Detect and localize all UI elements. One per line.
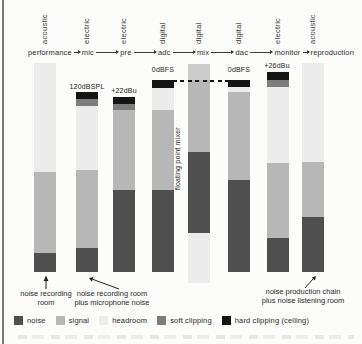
bar-monitor-headroom-segment [267, 87, 289, 163]
bar-performance-signal-segment [34, 172, 56, 253]
bar-adc-headroom-segment [152, 88, 174, 110]
figure-audio-chain-level-diagram: acousticelectricelectricdigitaldigitaldi… [0, 0, 362, 344]
bar-mic-signal-segment [76, 170, 98, 248]
bar-pre-noise-segment [113, 190, 135, 272]
legend-item-soft: soft clipping [157, 316, 212, 325]
level-annotation-dac: 0dBFS [228, 66, 250, 73]
bar-pre-hard-segment [113, 97, 135, 104]
level-annotation-monitor: +26dBu [264, 62, 290, 69]
bar-mix-over-segment [188, 64, 210, 80]
bar-performance-noise-segment [34, 253, 56, 272]
bar-monitor-soft-segment [267, 80, 289, 87]
bar-monitor-hard-segment [267, 72, 289, 80]
legend-swatch-icon [99, 316, 108, 325]
bar-monitor-noise-segment [267, 238, 289, 272]
bar-mic-soft-segment [76, 99, 98, 106]
floating-point-mixer-label: floating point mixer [174, 112, 181, 190]
level-annotation-pre: +22dBu [111, 87, 137, 94]
bar-mix-signal-segment [188, 80, 210, 152]
bar-mic-hard-segment [76, 92, 98, 99]
bar-dac-noise-segment [228, 180, 250, 272]
bar-dac [228, 0, 250, 344]
bar-adc [152, 0, 174, 344]
legend-item-signal: signal [56, 316, 90, 325]
legend-swatch-icon [222, 316, 231, 325]
legend-item-headroom: headroom [99, 316, 147, 325]
bar-reproduction-noise-segment [302, 217, 324, 272]
note-line: plus microphone noise [74, 299, 149, 308]
legend-label: headroom [112, 316, 147, 325]
bar-mix-headroom-segment [188, 233, 210, 283]
bar-mic-noise-segment [76, 248, 98, 272]
level-annotation-mic: 120dBSPL [69, 83, 104, 90]
bar-adc-noise-segment [152, 190, 174, 272]
cropped-caption-text [18, 335, 354, 339]
bar-mic-headroom-segment [76, 106, 98, 170]
note-0: noise recordingroom [20, 290, 71, 307]
note-2: noise production chainplus noise listeni… [262, 288, 345, 305]
legend-swatch-icon [56, 316, 65, 325]
bar-performance-headroom-segment [34, 63, 56, 172]
bar-pre-signal-segment [113, 110, 135, 190]
note-line: room [20, 299, 71, 308]
legend-swatch-icon [14, 316, 23, 325]
bar-dac-signal-segment [228, 92, 250, 180]
legend-label: hard clipping (ceiling) [235, 316, 309, 325]
legend: noisesignalheadroomsoft clippinghard cli… [14, 316, 309, 325]
bar-monitor-signal-segment [267, 163, 289, 238]
legend-label: soft clipping [170, 316, 212, 325]
legend-label: signal [69, 316, 90, 325]
note-line: plus noise listening room [262, 297, 345, 306]
zero-dbfs-dashed-line [173, 80, 228, 82]
bar-mix [188, 0, 210, 344]
legend-label: noise [27, 316, 46, 325]
page-edge-line [2, 0, 4, 344]
legend-item-noise: noise [14, 316, 46, 325]
note-1: noise recording roomplus microphone nois… [74, 290, 149, 307]
bar-dac-hard-segment [228, 80, 250, 87]
level-annotation-adc: 0dBFS [152, 66, 174, 73]
bar-reproduction-headroom-segment [302, 63, 324, 162]
bar-adc-signal-segment [152, 110, 174, 190]
bar-adc-hard-segment [152, 80, 174, 88]
legend-swatch-icon [157, 316, 166, 325]
bar-mix-noise-segment [188, 152, 210, 233]
bar-reproduction-signal-segment [302, 162, 324, 217]
legend-item-hard: hard clipping (ceiling) [222, 316, 309, 325]
